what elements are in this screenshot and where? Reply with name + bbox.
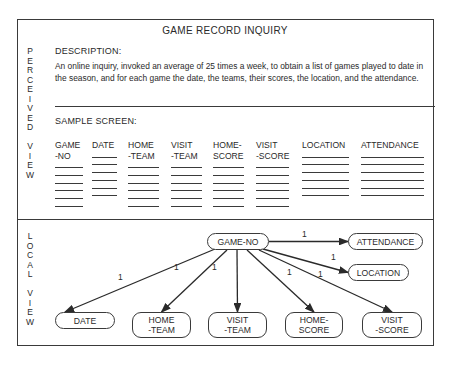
cardinality-label: 1 [118, 272, 123, 282]
entity-home-team: HOME -TEAM [132, 312, 191, 338]
relationship-arrow [237, 250, 238, 312]
entity-home-score: HOME- SCORE [285, 312, 343, 338]
cardinality-label: 1 [318, 269, 323, 279]
cardinality-label: 1 [302, 229, 307, 239]
cardinality-label: 1 [174, 262, 179, 272]
entity-visit-team: VISIT -TEAM [208, 312, 267, 338]
relationship-arrow [65, 249, 215, 312]
cardinality-label: 1 [331, 252, 336, 262]
relationship-arrow [247, 250, 314, 312]
cardinality-label: 1 [212, 262, 217, 272]
relationship-arrow [259, 250, 392, 312]
entity-attendance: ATTENDANCE [348, 233, 423, 250]
cardinality-label: 1 [287, 267, 292, 277]
entity-location: LOCATION [348, 264, 409, 281]
relationship-arrow [162, 250, 228, 312]
entity-game-no: GAME-NO [207, 233, 269, 250]
entity-date: DATE [55, 312, 115, 329]
entity-visit-score: VISIT -SCORE [362, 312, 422, 338]
